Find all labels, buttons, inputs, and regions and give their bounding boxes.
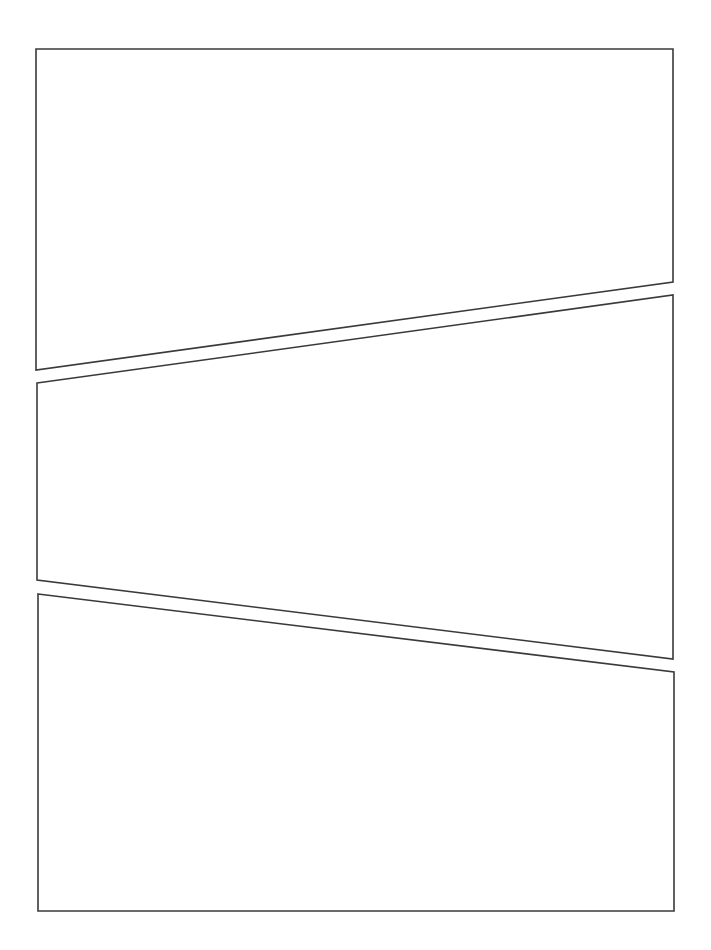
comic-page	[0, 0, 711, 950]
